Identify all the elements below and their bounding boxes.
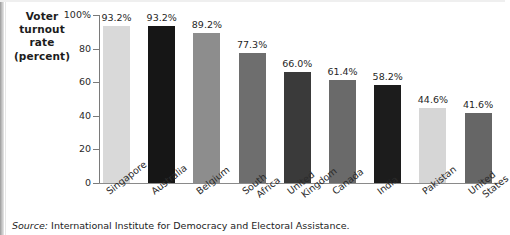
y-axis-tick-mark — [93, 82, 99, 83]
source-note: Source: International Institute for Demo… — [12, 220, 350, 231]
bar-value-label: 66.0% — [282, 58, 312, 69]
y-axis-tick-label: 20 — [49, 143, 91, 154]
y-axis-tick-mark — [93, 183, 99, 184]
bar-value-label: 61.4% — [327, 66, 357, 77]
y-axis-tick-label: 60 — [49, 76, 91, 87]
y-axis-tick-label: 80 — [49, 43, 91, 54]
bar-united-kingdom — [284, 72, 311, 183]
bar-value-label: 93.2% — [147, 12, 177, 23]
bar-india — [374, 85, 401, 183]
y-axis-line — [99, 15, 100, 184]
y-axis-caption-line-2: turnout — [6, 23, 78, 36]
y-axis-tick-label: 40 — [49, 110, 91, 121]
y-axis-tick-mark — [93, 116, 99, 117]
source-note-text: International Institute for Democracy an… — [51, 220, 349, 231]
bar-south-africa — [239, 53, 266, 183]
y-axis-tick-mark — [93, 49, 99, 50]
bar-value-label: 41.6% — [463, 99, 493, 110]
bar-value-label: 58.2% — [373, 71, 403, 82]
y-axis-tick-mark — [93, 149, 99, 150]
bar-value-label: 77.3% — [237, 39, 267, 50]
bar-australia — [148, 26, 175, 183]
y-axis-tick-label: 0 — [49, 177, 91, 188]
bar-value-label: 93.2% — [101, 12, 131, 23]
bar-belgium — [193, 33, 220, 183]
y-axis-tick-label: 100% — [49, 9, 91, 20]
bar-value-label: 44.6% — [418, 94, 448, 105]
bar-value-label: 89.2% — [192, 19, 222, 30]
source-note-label: Source: — [12, 220, 48, 231]
y-axis-tick-mark — [93, 15, 99, 16]
bar-singapore — [103, 26, 130, 183]
